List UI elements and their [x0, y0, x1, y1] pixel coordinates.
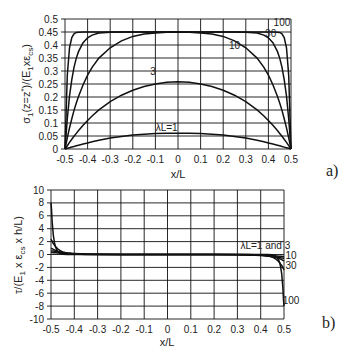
- y-tick-label: 0.15: [39, 105, 59, 116]
- y-tick-label: 0.4: [44, 40, 58, 51]
- y-tick-label: 0.05: [39, 131, 59, 142]
- y-tick-label: 8: [38, 197, 44, 208]
- panel-label-b: b): [322, 314, 335, 332]
- y-tick-label: -4: [35, 275, 44, 286]
- y-tick-label: 0.45: [39, 27, 59, 38]
- y-tick-label: -2: [35, 262, 44, 273]
- y-tick-label: 0.2: [44, 92, 58, 103]
- curve-label: λL=1: [156, 122, 178, 133]
- curve-label: 100: [283, 295, 300, 306]
- x-tick-label: 0.3: [230, 324, 244, 335]
- curve-label: 3: [150, 66, 156, 77]
- y-tick-label: -6: [35, 288, 44, 299]
- x-tick-label: -0.2: [112, 324, 130, 335]
- x-tick-label: 0: [165, 324, 171, 335]
- curve-label: 100: [274, 17, 291, 28]
- chart-b-shear: -0.5-0.4-0.3-0.2-0.100.10.20.30.40.5-10-…: [12, 185, 335, 349]
- x-tick-label: -0.4: [79, 154, 97, 165]
- y-tick-label: -8: [35, 301, 44, 312]
- y-tick-label: 0.5: [44, 14, 58, 25]
- chart-a-annotations: λL=131030100: [150, 17, 290, 133]
- x-tick-label: -0.5: [42, 324, 60, 335]
- x-tick-label: 0.1: [184, 324, 198, 335]
- chart-b-annotations: λL=1 and 31030100: [240, 240, 299, 306]
- chart-a-ylabel: σ1(z=z*)/(E1xεcs): [19, 44, 35, 124]
- x-tick-label: -0.4: [66, 324, 84, 335]
- chart-b-ticks: -0.5-0.4-0.3-0.2-0.100.10.20.30.40.5-10-…: [30, 185, 292, 336]
- x-tick-label: 0.4: [254, 324, 268, 335]
- y-tick-label: 0: [52, 144, 58, 155]
- chart-a-ticks: -0.5-0.4-0.3-0.2-0.100.10.20.30.40.500.0…: [39, 14, 299, 166]
- chart-a-xlabel: x/L: [171, 168, 186, 180]
- y-tick-label: 0.3: [44, 66, 58, 77]
- y-tick-label: 2: [38, 236, 44, 247]
- x-tick-label: 0.2: [207, 324, 221, 335]
- x-tick-label: 0: [175, 154, 181, 165]
- chart-a-stress: -0.5-0.4-0.3-0.2-0.100.10.20.30.40.500.0…: [19, 14, 338, 181]
- y-tick-label: 0: [38, 249, 44, 260]
- y-tick-label: 10: [33, 185, 45, 196]
- figure: -0.5-0.4-0.3-0.2-0.100.10.20.30.40.500.0…: [0, 0, 355, 363]
- x-tick-label: 0.4: [261, 154, 275, 165]
- x-tick-label: 0.3: [239, 154, 253, 165]
- curve-label: 30: [285, 260, 297, 271]
- x-tick-label: -0.5: [56, 154, 74, 165]
- panel-label-a: a): [326, 162, 338, 180]
- curve-label: 30: [265, 28, 277, 39]
- curve-label: 10: [229, 40, 241, 51]
- y-tick-label: -10: [30, 314, 45, 325]
- x-tick-label: 0.1: [194, 154, 208, 165]
- x-tick-label: -0.1: [136, 324, 154, 335]
- chart-b-ylabel: τ/(E1 x εcs x h/L): [12, 216, 27, 294]
- x-tick-label: 0.5: [277, 324, 291, 335]
- x-tick-label: -0.3: [102, 154, 120, 165]
- curve-label: λL=1 and 3: [240, 240, 290, 251]
- x-tick-label: 0.2: [216, 154, 230, 165]
- y-tick-label: 4: [38, 223, 44, 234]
- x-tick-label: -0.3: [89, 324, 107, 335]
- y-tick-label: 0.25: [39, 79, 59, 90]
- y-tick-label: 0.35: [39, 53, 59, 64]
- x-tick-label: -0.2: [124, 154, 142, 165]
- y-tick-label: 0.1: [44, 118, 58, 129]
- x-tick-label: 0.5: [284, 154, 298, 165]
- chart-b-xlabel: x/L: [160, 336, 175, 348]
- x-tick-label: -0.1: [147, 154, 165, 165]
- y-tick-label: 6: [38, 210, 44, 221]
